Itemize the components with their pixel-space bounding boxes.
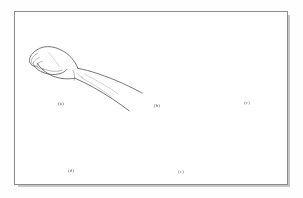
panel-a-illustration [29, 47, 142, 111]
figure-frame: (a) (b) (c) (d) (e) [14, 11, 288, 185]
figure-illustration-canvas [15, 12, 287, 184]
panel-caption-e: (e) [178, 169, 184, 175]
panel-caption-b: (b) [154, 103, 160, 109]
panel-caption-c: (c) [244, 100, 250, 106]
panel-caption-a: (a) [58, 101, 64, 107]
panel-caption-d: (d) [68, 168, 74, 174]
figure-page: (a) (b) (c) (d) (e) [0, 0, 303, 198]
